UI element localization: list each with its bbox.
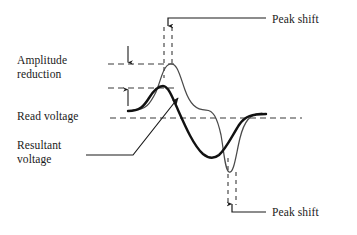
label-peak-shift-bottom: Peak shift — [272, 206, 319, 220]
label-peak-shift-top: Peak shift — [272, 13, 319, 27]
resultant-voltage-leader — [86, 98, 178, 155]
peak-shift-bottom-leader — [232, 204, 266, 212]
label-read-voltage: Read voltage — [17, 110, 79, 124]
label-resultant-voltage: Resultant voltage — [17, 139, 61, 166]
label-amplitude-reduction: Amplitude reduction — [17, 54, 67, 81]
peak-shift-diagram: Amplitude reduction Read voltage Resulta… — [0, 0, 357, 235]
peak-shift-top-leader — [168, 18, 266, 26]
resultant-voltage-curve — [128, 86, 266, 158]
